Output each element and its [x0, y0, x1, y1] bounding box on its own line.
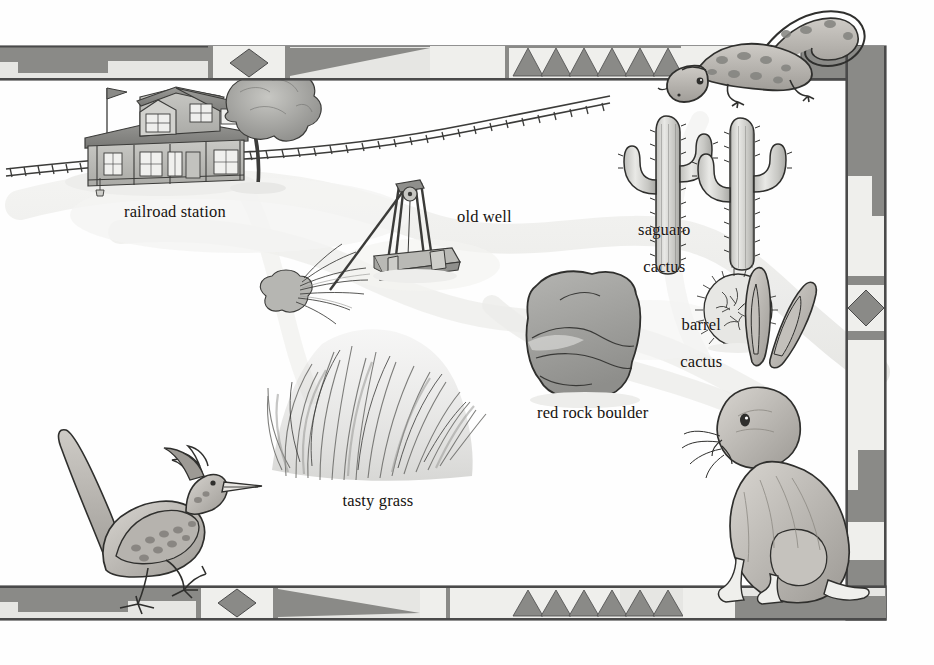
label-barrel-cactus-line2: cactus	[680, 352, 722, 371]
label-saguaro-cactus-line1: saguaro	[638, 220, 690, 239]
label-barrel-cactus: barrel cactus	[645, 298, 749, 372]
border-bottom	[0, 586, 886, 620]
label-saguaro-cactus: saguaro cactus	[594, 203, 726, 277]
label-railroad-station: railroad station	[124, 203, 226, 221]
illustration-canvas: railroad station old well saguaro cactus…	[0, 0, 934, 665]
label-red-rock-boulder: red rock boulder	[537, 404, 648, 422]
label-old-well: old well	[457, 208, 512, 226]
label-tasty-grass: tasty grass	[318, 492, 438, 510]
desert-map-illustration	[0, 0, 934, 665]
border-right	[846, 46, 886, 620]
label-saguaro-cactus-line2: cactus	[643, 257, 685, 276]
label-barrel-cactus-line1: barrel	[682, 315, 721, 334]
